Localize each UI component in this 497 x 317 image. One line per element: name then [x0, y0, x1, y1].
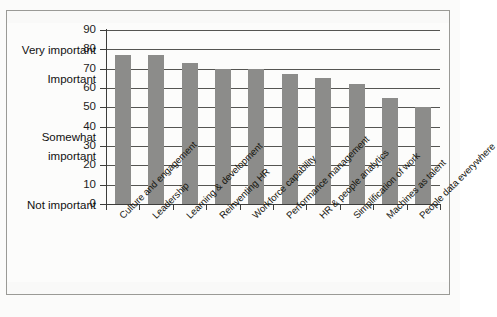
y-category-somewhat-line1: Somewhat [10, 131, 96, 143]
y-category-very-important: Very important [14, 44, 96, 56]
x-tick-0 [106, 204, 107, 210]
y-tick-label-10: 10 [70, 179, 96, 191]
y-category-somewhat-line2: important [10, 150, 96, 162]
y-tick-label-50: 50 [70, 101, 96, 113]
y-tick-label-90: 90 [70, 24, 96, 36]
bar [115, 55, 131, 204]
y-category-not-important: Not important [8, 199, 96, 211]
y-category-important: Important [14, 73, 96, 85]
